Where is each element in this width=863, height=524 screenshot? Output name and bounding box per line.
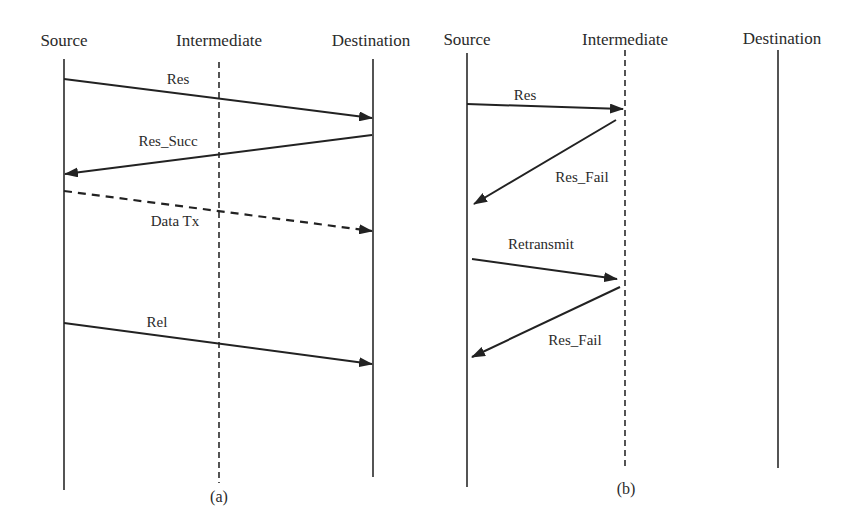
participant-intermediate-label: Intermediate	[582, 30, 668, 49]
message-arrow-res-fail	[474, 120, 616, 204]
message-arrow-res	[467, 104, 623, 109]
participant-source-label: Source	[443, 30, 490, 49]
message-arrow-rel	[64, 323, 372, 364]
panel-a-caption: (a)	[210, 488, 228, 506]
message-arrow-res	[64, 79, 372, 118]
message-label-res: Res	[514, 87, 537, 103]
message-label-res-fail-2: Res_Fail	[548, 332, 601, 348]
message-label-rel: Rel	[147, 314, 168, 330]
message-arrow-res-succ	[65, 135, 372, 174]
message-arrow-data-tx	[64, 191, 372, 231]
message-arrow-retransmit	[472, 259, 617, 279]
participant-destination-label: Destination	[743, 29, 822, 48]
participant-source-label: Source	[40, 31, 87, 50]
panel-b: Source Intermediate Destination Res Res_…	[443, 29, 821, 498]
panel-a: Source Intermediate Destination Res Res_…	[40, 31, 410, 506]
message-label-res-fail: Res_Fail	[555, 169, 608, 185]
panel-b-caption: (b)	[617, 480, 636, 498]
message-label-res-succ: Res_Succ	[138, 133, 198, 149]
message-label-retransmit: Retransmit	[508, 236, 575, 252]
message-label-res: Res	[167, 71, 190, 87]
sequence-diagram: Source Intermediate Destination Res Res_…	[0, 0, 863, 524]
participant-intermediate-label: Intermediate	[176, 31, 262, 50]
participant-destination-label: Destination	[332, 31, 411, 50]
message-label-data-tx: Data Tx	[151, 213, 200, 229]
